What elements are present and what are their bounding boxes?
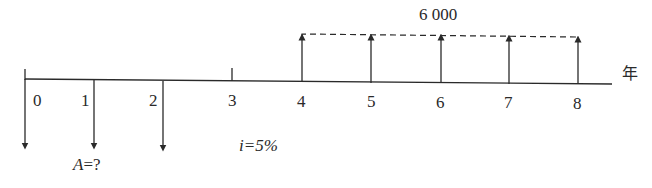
- outflow-unknown: =?: [83, 155, 100, 174]
- period-label-8: 8: [573, 95, 582, 112]
- period-label-7: 7: [504, 94, 513, 111]
- period-label-4: 4: [297, 93, 306, 110]
- inflow-dashed-bracket: [302, 34, 578, 40]
- period-label-2: 2: [149, 92, 158, 109]
- outflow-amount-label: A=?: [73, 156, 101, 173]
- period-label-3: 3: [228, 92, 237, 109]
- interest-rate-value: =5%: [244, 136, 278, 155]
- period-label-1: 1: [81, 92, 90, 109]
- outflow-var: A: [73, 155, 83, 174]
- period-label-0: 0: [33, 92, 42, 109]
- period-label-5: 5: [367, 93, 376, 110]
- period-label-6: 6: [436, 94, 445, 111]
- time-axis: [25, 79, 612, 84]
- axis-unit-label: 年: [622, 66, 638, 82]
- interest-rate-label: i=5%: [239, 137, 278, 154]
- inflow-amount-label: 6 000: [419, 6, 457, 23]
